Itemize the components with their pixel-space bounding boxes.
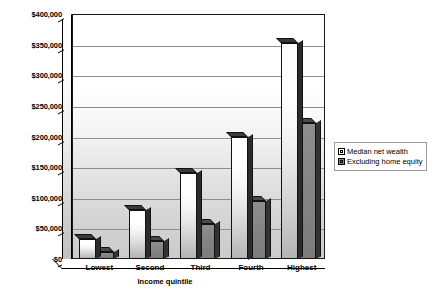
bar-front-face [79,239,96,259]
x-axis-tick-label: Fourth [238,263,263,272]
chart-legend: Median net wealthExcluding home equity [334,142,427,171]
legend-swatch-icon [338,148,345,155]
x-axis-tick-label: Highest [287,263,316,272]
y-axis-tick-label: $200,000 [4,132,62,141]
bar-side-face [298,41,303,259]
legend-item: Excluding home equity [338,157,422,166]
y-axis-tick-label: $400,000 [4,10,62,19]
legend-label: Median net wealth [347,147,408,156]
y-axis-tick-label: $250,000 [4,101,62,110]
bar-group [281,14,316,259]
bar-group [231,14,266,259]
bar-front-face [180,173,197,259]
bar-side-face [266,198,271,259]
bar-side-face [248,134,253,259]
bar-side-face [316,120,321,259]
x-axis-tick-label: Lowest [86,263,114,272]
bar-side-face [96,237,101,259]
y-axis-tick-label: $350,000 [4,40,62,49]
bar-chart: $0$50,000$100,000$150,000$200,000$250,00… [0,0,435,293]
legend-label: Excluding home equity [347,157,422,166]
chart-side-wall [62,14,72,264]
bar-side-face [164,238,169,259]
bar [281,43,298,259]
bar-group [180,14,215,259]
bar-front-face [281,43,298,259]
bar [231,137,248,260]
bar-side-face [197,171,202,259]
bar-group [79,14,114,259]
legend-item: Median net wealth [338,147,422,156]
bar-side-face [146,207,151,259]
x-axis-tick-label: Second [135,263,164,272]
bar [79,239,96,259]
y-axis-tick-label: $50,000 [4,224,62,233]
x-axis-title: Income quintile [0,277,330,286]
bar-group [129,14,164,259]
legend-swatch-icon [338,158,345,165]
y-axis: $0$50,000$100,000$150,000$200,000$250,00… [0,0,62,293]
bar [129,210,146,259]
bar-side-face [215,221,220,259]
y-axis-tick-label: $100,000 [4,193,62,202]
x-axis-tick-label: Third [191,263,211,272]
bar [180,173,197,259]
bar-front-face [129,210,146,259]
y-axis-tick-label: $300,000 [4,71,62,80]
bar-front-face [231,137,248,260]
y-axis-tick-label: $150,000 [4,163,62,172]
